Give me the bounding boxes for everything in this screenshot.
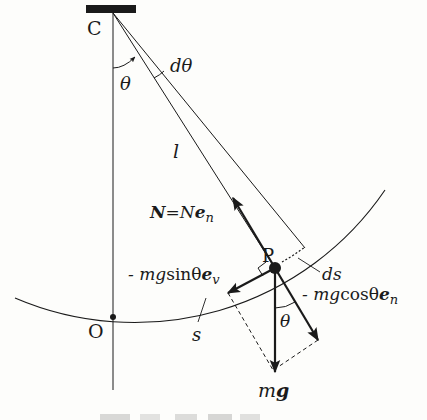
label-theta-lower: θ	[280, 311, 290, 331]
dashed-guide-right	[278, 340, 318, 367]
caption-fragment	[240, 414, 260, 420]
theta-arc	[113, 57, 135, 68]
label-pivot-c: C	[87, 17, 102, 39]
label-gravity: mg	[258, 379, 289, 401]
tangential-component-arrow	[228, 268, 275, 293]
caption-fragment	[140, 414, 160, 420]
s-leader-line	[198, 298, 206, 322]
dtheta-arc	[154, 71, 164, 78]
label-length-l: l	[173, 140, 179, 162]
label-normal-force: N=Nen	[149, 202, 214, 225]
label-arc-s: s	[192, 324, 201, 345]
ds-leader-line	[298, 258, 320, 272]
label-tangential-force: - mgsinθev	[128, 264, 220, 287]
caption-fragment	[100, 414, 130, 420]
ceiling-support	[86, 5, 136, 13]
label-origin-o: O	[88, 320, 104, 342]
pendulum-diagram: C θ dθ l N=Nen P - mgsinθev ds - mgcosθe…	[0, 0, 427, 420]
label-bob-p: P	[262, 245, 274, 266]
label-ds: ds	[322, 264, 342, 284]
caption-fragment	[175, 414, 197, 420]
label-theta: θ	[120, 73, 131, 94]
theta-arc-lower	[275, 302, 295, 308]
diagram-svg: C θ dθ l N=Nen P - mgsinθev ds - mgcosθe…	[0, 0, 427, 420]
label-normal-component: - mgcosθen	[302, 284, 398, 307]
string-line	[113, 13, 275, 268]
origin-point	[110, 314, 116, 320]
caption-fragment	[208, 414, 232, 420]
label-dtheta: dθ	[170, 55, 193, 76]
dashed-guide-left	[228, 293, 273, 370]
